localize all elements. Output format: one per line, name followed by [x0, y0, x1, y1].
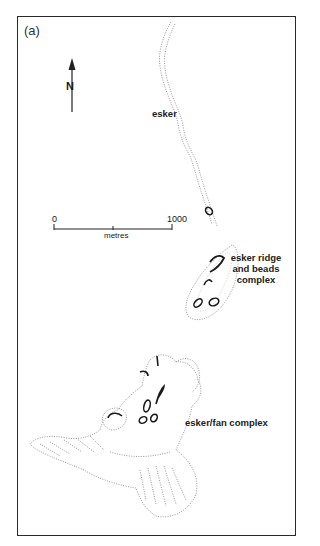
north-label: N	[66, 80, 74, 92]
esker-feature	[159, 22, 217, 226]
esker-label: esker	[152, 108, 177, 119]
ridge-label-line-1: esker ridge	[224, 252, 288, 263]
fan-complex-ridges	[108, 356, 164, 425]
ridge-complex-label: esker ridge and beads complex	[224, 252, 288, 285]
ridge-label-line-3: complex	[224, 274, 288, 285]
fan-complex-label: esker/fan complex	[185, 417, 268, 428]
scale-bar	[54, 224, 172, 230]
scale-end-label: 1000	[167, 214, 187, 224]
scale-unit-label: metres	[104, 231, 128, 240]
fan-complex-feature	[30, 355, 201, 517]
scale-start-label: 0	[52, 214, 57, 224]
esker-bead	[204, 206, 214, 216]
ridge-label-line-2: and beads	[224, 263, 288, 274]
